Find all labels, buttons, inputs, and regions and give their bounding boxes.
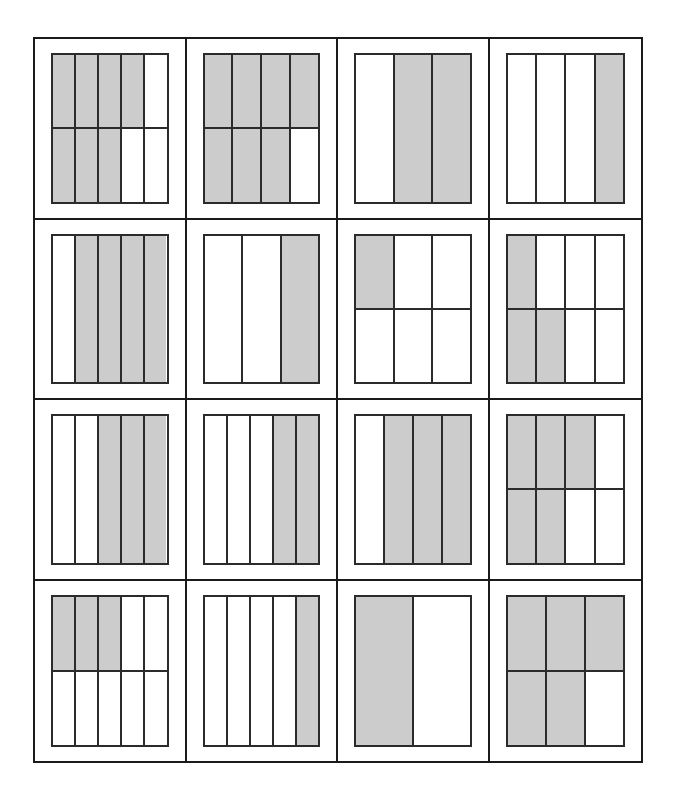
unshaded-part[interactable] xyxy=(205,236,242,383)
unshaded-part[interactable] xyxy=(74,672,97,745)
unshaded-part[interactable] xyxy=(272,597,295,746)
unshaded-part[interactable] xyxy=(289,129,318,201)
unshaded-part[interactable] xyxy=(356,416,383,563)
shaded-part[interactable] xyxy=(289,55,318,127)
unshaded-part[interactable] xyxy=(53,672,74,745)
shaded-part[interactable] xyxy=(205,55,232,127)
shaded-part[interactable] xyxy=(431,55,470,202)
shaded-part[interactable] xyxy=(120,55,143,127)
unshaded-part[interactable] xyxy=(584,672,623,745)
shaded-part[interactable] xyxy=(356,236,393,308)
shaded-part[interactable] xyxy=(508,416,535,488)
unshaded-part[interactable] xyxy=(431,310,470,382)
shaded-part[interactable] xyxy=(205,129,232,201)
shaded-part[interactable] xyxy=(53,55,74,127)
shaded-part[interactable] xyxy=(74,597,97,670)
shaded-part[interactable] xyxy=(508,236,535,308)
fraction-model-row xyxy=(53,236,167,383)
shaded-part[interactable] xyxy=(97,236,120,383)
shaded-part[interactable] xyxy=(74,129,97,201)
shaded-part[interactable] xyxy=(97,129,120,201)
shaded-part[interactable] xyxy=(441,416,470,563)
unshaded-part[interactable] xyxy=(226,597,249,746)
unshaded-part[interactable] xyxy=(594,490,623,562)
shaded-part[interactable] xyxy=(584,597,623,670)
shaded-part[interactable] xyxy=(74,55,97,127)
shaded-part[interactable] xyxy=(535,310,564,382)
shaded-part[interactable] xyxy=(97,55,120,127)
shaded-part[interactable] xyxy=(412,416,441,563)
shaded-part[interactable] xyxy=(508,672,545,745)
unshaded-part[interactable] xyxy=(249,416,272,563)
unshaded-part[interactable] xyxy=(594,310,623,382)
shaded-part[interactable] xyxy=(231,129,260,201)
shaded-part[interactable] xyxy=(564,416,593,488)
shaded-part[interactable] xyxy=(53,597,74,670)
unshaded-part[interactable] xyxy=(564,310,593,382)
shaded-part[interactable] xyxy=(545,672,584,745)
shaded-part[interactable] xyxy=(260,55,289,127)
fraction-model-14 xyxy=(203,595,321,748)
shaded-part[interactable] xyxy=(545,597,584,670)
shaded-part[interactable] xyxy=(280,236,319,383)
unshaded-part[interactable] xyxy=(143,597,166,670)
shaded-part[interactable] xyxy=(260,129,289,201)
shaded-part[interactable] xyxy=(120,416,143,563)
unshaded-part[interactable] xyxy=(564,490,593,562)
unshaded-part[interactable] xyxy=(120,597,143,670)
shaded-part[interactable] xyxy=(272,416,295,563)
unshaded-part[interactable] xyxy=(241,236,280,383)
unshaded-part[interactable] xyxy=(564,236,593,308)
shaded-part[interactable] xyxy=(535,490,564,562)
unshaded-part[interactable] xyxy=(249,597,272,746)
shaded-part[interactable] xyxy=(295,597,318,746)
unshaded-part[interactable] xyxy=(143,55,166,127)
unshaded-part[interactable] xyxy=(205,416,226,563)
shaded-part[interactable] xyxy=(53,129,74,201)
shaded-part[interactable] xyxy=(97,416,120,563)
unshaded-part[interactable] xyxy=(535,55,564,202)
unshaded-part[interactable] xyxy=(431,236,470,308)
unshaded-part[interactable] xyxy=(53,416,74,563)
fraction-model-row xyxy=(205,236,319,383)
fraction-model-row xyxy=(53,416,167,563)
shaded-part[interactable] xyxy=(97,597,120,670)
unshaded-part[interactable] xyxy=(594,416,623,488)
shaded-part[interactable] xyxy=(508,310,535,382)
unshaded-part[interactable] xyxy=(120,672,143,745)
unshaded-part[interactable] xyxy=(97,672,120,745)
unshaded-part[interactable] xyxy=(393,310,432,382)
unshaded-part[interactable] xyxy=(356,55,393,202)
unshaded-part[interactable] xyxy=(226,416,249,563)
fraction-model-cell xyxy=(338,220,490,401)
shaded-part[interactable] xyxy=(356,597,412,746)
shaded-part[interactable] xyxy=(74,236,97,383)
shaded-part[interactable] xyxy=(383,416,412,563)
unshaded-part[interactable] xyxy=(412,597,470,746)
unshaded-part[interactable] xyxy=(356,310,393,382)
shaded-part[interactable] xyxy=(508,597,545,670)
fraction-model-row xyxy=(205,127,319,201)
shaded-part[interactable] xyxy=(393,55,432,202)
unshaded-part[interactable] xyxy=(594,236,623,308)
unshaded-part[interactable] xyxy=(143,129,166,201)
shaded-part[interactable] xyxy=(535,416,564,488)
shaded-part[interactable] xyxy=(594,55,623,202)
shaded-part[interactable] xyxy=(143,236,166,383)
unshaded-part[interactable] xyxy=(205,597,226,746)
unshaded-part[interactable] xyxy=(535,236,564,308)
unshaded-part[interactable] xyxy=(564,55,593,202)
shaded-part[interactable] xyxy=(508,490,535,562)
unshaded-part[interactable] xyxy=(508,55,535,202)
unshaded-part[interactable] xyxy=(74,416,97,563)
unshaded-part[interactable] xyxy=(143,672,166,745)
fraction-model-row xyxy=(356,308,470,382)
unshaded-part[interactable] xyxy=(393,236,432,308)
shaded-part[interactable] xyxy=(295,416,318,563)
unshaded-part[interactable] xyxy=(53,236,74,383)
shaded-part[interactable] xyxy=(143,416,166,563)
shaded-part[interactable] xyxy=(120,236,143,383)
fraction-model-10 xyxy=(203,414,321,565)
shaded-part[interactable] xyxy=(231,55,260,127)
unshaded-part[interactable] xyxy=(120,129,143,201)
